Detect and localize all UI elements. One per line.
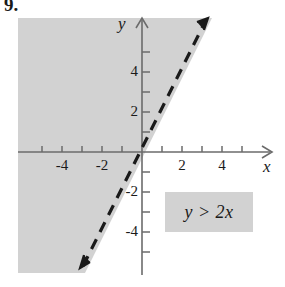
inequality-annotation-box: y > 2x xyxy=(165,192,253,232)
x-axis-name-label: x xyxy=(263,157,271,177)
x-tick-label-4: 4 xyxy=(214,157,230,174)
inequality-annotation-text: y > 2x xyxy=(165,192,253,232)
y-tick-label-4: 4 xyxy=(122,63,138,80)
x-tick-label-2: 2 xyxy=(174,157,190,174)
x-tick-label-minus2: -2 xyxy=(90,157,114,174)
y-tick-label-minus2: -2 xyxy=(114,183,138,200)
graph-figure-container: 9. xyxy=(0,0,285,287)
x-tick-label-minus4: -4 xyxy=(50,157,74,174)
y-tick-label-2: 2 xyxy=(122,103,138,120)
y-axis-name-label: y xyxy=(118,14,126,34)
coordinate-plane-graph xyxy=(0,0,285,287)
y-tick-label-minus4: -4 xyxy=(114,223,138,240)
